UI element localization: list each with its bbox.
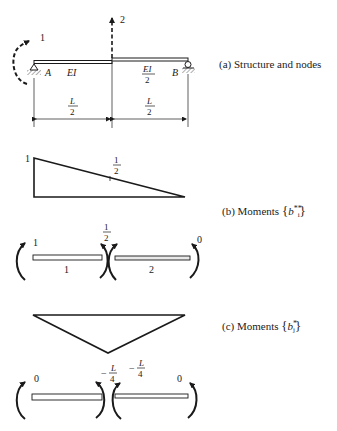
member-2-c [115,394,188,398]
member-2-label: 2 [149,264,154,275]
span-left-num: L [69,96,75,106]
caption-b-text: (b) Moments [222,205,279,217]
joint-value-c-sign: − [101,368,107,379]
end-right-value-c: 0 [177,373,182,384]
pin-support-a-icon [27,64,41,75]
caption-c-text: (c) Moments [222,320,279,332]
diagram-b-mid-num: 1 [114,155,119,165]
end-left-value-c: 0 [34,373,39,384]
panel-c-moments: − L 4 0 − L 4 0 [17,315,197,419]
diagram-c-num: L [138,358,144,368]
member-1-c [32,394,102,400]
caption-c: (c) Moments {b*j} [222,318,301,334]
span-left-den: 2 [70,107,75,117]
span-right-num: L [146,96,152,106]
caption-a-text: (a) Structure and nodes [219,58,321,70]
right-stiffness-num: EI [142,64,152,74]
roller-support-b-icon [182,62,195,74]
end-moment-left-arrow-c [17,382,25,419]
node1-rotation-arrow [13,41,29,84]
end-right-value-b: 0 [197,234,202,245]
joint-value-c-den: 4 [110,374,115,384]
dimension-lines [34,62,188,128]
joint-moment-right-arrow-c [113,383,121,419]
panel-b-moments: 1 1 2 1 2 1 1 2 0 [17,153,202,280]
end-left-value-b: 1 [33,237,38,248]
member-1-label: 1 [64,264,69,275]
beam-right-segment [112,58,188,61]
joint-value-b-den: 2 [104,233,109,243]
panel-a-structure: 1 2 A EI EI 2 B L 2 L 2 [13,14,195,128]
node1-label: 1 [40,32,45,43]
member-1-b [33,255,102,260]
end-moment-left-arrow-b [17,243,25,280]
moment-diagram-c [33,315,185,353]
end-moment-right-arrow-b [190,244,199,278]
diagram-b-left-value: 1 [25,153,30,164]
joint-value-b-num: 1 [104,222,109,232]
node2-label: 2 [120,14,125,25]
moment-diagram-b [34,158,185,197]
caption-a: (a) Structure and nodes [219,58,321,70]
caption-b: (b) Moments {b**i} [222,203,306,219]
diagram-b-mid-den: 2 [114,166,119,176]
support-b-label: B [172,67,178,78]
joint-value-c-num: L [110,363,116,373]
span-right-den: 2 [147,107,152,117]
diagram-c-den: 4 [138,369,143,379]
joint-moment-left-arrow-b [100,244,108,278]
diagram-c-sign: − [129,363,135,374]
joint-moment-right-arrow-b [109,244,117,280]
beam-left-segment [34,61,112,64]
end-moment-right-arrow-c [188,383,197,418]
support-a-label: A [44,67,52,78]
right-stiffness-den: 2 [145,75,150,85]
left-stiffness-label: EI [66,67,77,78]
member-2-b [115,256,190,260]
